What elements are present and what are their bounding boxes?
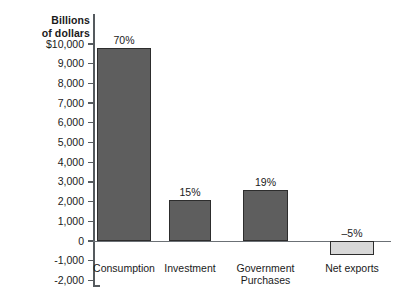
y-axis-tick-label: 1,000 (10, 216, 84, 227)
y-axis-tick (88, 122, 93, 123)
y-axis-tick-label: 2,000 (10, 196, 84, 207)
y-axis-tick (88, 162, 93, 163)
y-axis-tick-label: 3,000 (10, 176, 84, 187)
y-axis-tick (88, 201, 93, 202)
category-label: Net exports (295, 262, 399, 274)
y-axis-tick (88, 83, 93, 84)
y-axis-tick (88, 142, 93, 143)
bar-value-label: 15% (149, 187, 231, 198)
y-axis-tick-label: 8,000 (10, 78, 84, 89)
y-axis-title-line1: Billions (18, 14, 90, 27)
y-axis-foot (93, 285, 100, 287)
y-axis-tick-label: 0 (10, 236, 84, 247)
y-axis-tick (88, 280, 93, 281)
bar-value-label: 70% (77, 35, 171, 46)
y-axis-line (93, 14, 95, 287)
y-axis-tick-label: $10,000 (10, 39, 84, 50)
y-axis-tick-label: 6,000 (10, 117, 84, 128)
category-label-line: Net exports (295, 262, 399, 274)
y-axis-tick (88, 181, 93, 182)
category-label-line: Purchases (208, 274, 323, 286)
bar-consumption (97, 48, 151, 241)
y-axis-tick (88, 102, 93, 103)
bar-chart: Billions of dollars $10,0009,0008,0007,0… (0, 0, 399, 305)
bar-government-purchases (243, 190, 288, 241)
y-axis-tick-label: 9,000 (10, 58, 84, 69)
y-axis-tick-label: 4,000 (10, 157, 84, 168)
y-axis-tick (88, 221, 93, 222)
y-axis-tick-label: -2,000 (10, 275, 84, 286)
y-axis-tick-label: 7,000 (10, 98, 84, 109)
bar-net-exports (330, 241, 374, 255)
y-axis-tick-label: 5,000 (10, 137, 84, 148)
bar-investment (169, 200, 211, 241)
bar-value-label: 19% (223, 177, 308, 188)
bar-value-label: –5% (310, 228, 394, 239)
y-axis-tick (88, 63, 93, 64)
